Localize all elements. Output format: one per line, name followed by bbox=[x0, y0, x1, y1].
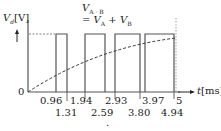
annot-vb-sub: B bbox=[127, 20, 131, 27]
tick-2.93: 2.93 bbox=[105, 96, 127, 106]
tick-3.97: 3.97 bbox=[142, 96, 164, 106]
tick-2.59: 2.59 bbox=[91, 108, 113, 118]
tick-0.96: 0.96 bbox=[40, 96, 62, 106]
y-axis-label: Vd[V] bbox=[3, 13, 29, 25]
tick-5: 5 bbox=[176, 96, 182, 106]
right-arrow-icon bbox=[190, 90, 195, 94]
annot-va: V bbox=[94, 14, 101, 25]
stray-dot: . bbox=[106, 118, 109, 128]
pulse-train bbox=[56, 34, 174, 92]
up-arrow-icon bbox=[15, 29, 19, 34]
x-unit: [ms] bbox=[201, 85, 221, 96]
annot-eq: = bbox=[82, 14, 94, 25]
tick-1.31: 1.31 bbox=[55, 108, 77, 118]
annotation-line2: = VA + VB bbox=[82, 15, 132, 27]
origin-label: 0 bbox=[18, 87, 24, 97]
tick-3.80: 3.80 bbox=[128, 108, 150, 118]
x-axis-label: t[ms] bbox=[197, 86, 221, 96]
tick-4.94: 4.94 bbox=[161, 108, 183, 118]
vab-dashed-curve bbox=[28, 38, 176, 92]
y-unit: [V] bbox=[14, 12, 29, 23]
tick-1.94: 1.94 bbox=[70, 96, 92, 106]
annot-plus: + bbox=[105, 14, 120, 25]
